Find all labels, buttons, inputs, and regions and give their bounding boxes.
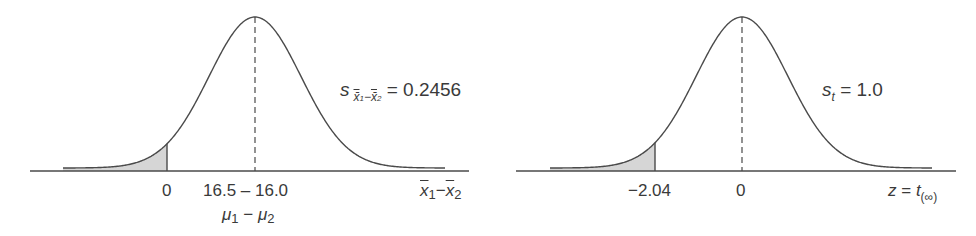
right-tick-critical: −2.04 xyxy=(628,182,671,199)
right-sd-label: st = 1.0 xyxy=(822,80,883,99)
left-tick-zero: 0 xyxy=(162,182,171,199)
left-sd-label: sx̄1−x̄2 = 0.2456 xyxy=(340,80,461,99)
chart-canvas xyxy=(0,0,976,236)
right-normal-curve-plot xyxy=(516,17,956,171)
left-tick-mean: 16.5 – 16.0 xyxy=(203,182,288,199)
left-axis-label: x1−x2 xyxy=(420,182,461,199)
left-mu-label: μ1 − μ2 xyxy=(222,206,275,223)
right-tick-zero: 0 xyxy=(736,182,745,199)
right-axis-label: z = t(∞) xyxy=(888,182,937,199)
